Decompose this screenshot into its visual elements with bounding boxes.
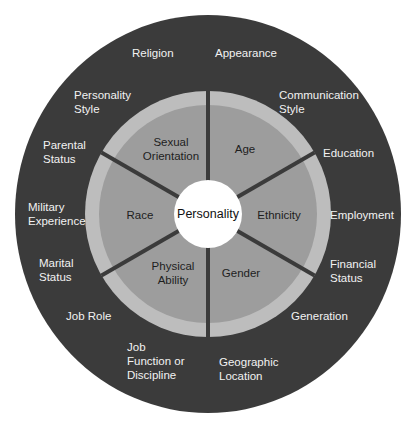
outer-label-personality-style-line2: Style (74, 103, 100, 115)
outer-label-military-experience-line1: Military (28, 201, 65, 213)
outer-label-job-function-line2: Function or (127, 355, 185, 367)
outer-label-education: Education (323, 147, 374, 159)
outer-label-parental-status-line1: Parental (43, 139, 86, 151)
inner-dimension-age: Age (235, 143, 255, 155)
inner-dimension-gender: Gender (222, 267, 261, 279)
outer-label-marital-status-line1: Marital (39, 257, 74, 269)
inner-dimension-race: Race (127, 209, 154, 221)
inner-dimension-ethnicity: Ethnicity (257, 209, 301, 221)
inner-label-physical-ability-line2: Ability (158, 274, 189, 286)
outer-label-marital-status-line2: Status (39, 271, 72, 283)
outer-label-communication-style-line2: Style (279, 103, 305, 115)
outer-label-geographic-location-line2: Location (219, 370, 262, 382)
outer-label-military-experience-line2: Experience (28, 215, 86, 227)
inner-label-sexual-orientation-line2: Orientation (143, 150, 199, 162)
outer-label-appearance: Appearance (215, 47, 277, 59)
inner-label-gender: Gender (222, 267, 261, 279)
outer-label-financial-status-line2: Status (330, 272, 363, 284)
outer-label-generation: Generation (291, 310, 348, 322)
outer-label-geographic-location-line1: Geographic (219, 356, 279, 368)
outer-label-parental-status-line2: Status (43, 153, 76, 165)
outer-label-personality-style-line1: Personality (74, 89, 131, 101)
outer-label-communication-style-line1: Communication (279, 89, 359, 101)
inner-label-race: Race (127, 209, 154, 221)
outer-label-job-role: Job Role (66, 310, 111, 322)
diversity-wheel: Personality Age Ethnicity Gender Physica… (0, 0, 416, 425)
outer-label-religion: Religion (132, 47, 174, 59)
inner-label-physical-ability-line1: Physical (152, 260, 195, 272)
inner-label-age: Age (235, 143, 255, 155)
outer-label-job-function-line3: Discipline (127, 369, 176, 381)
core-label: Personality (177, 207, 240, 221)
outer-label-employment: Employment (330, 209, 395, 221)
inner-label-sexual-orientation-line1: Sexual (153, 136, 188, 148)
outer-label-job-function-line1: Job (127, 341, 146, 353)
outer-label-financial-status-line1: Financial (330, 258, 376, 270)
inner-label-ethnicity: Ethnicity (257, 209, 301, 221)
